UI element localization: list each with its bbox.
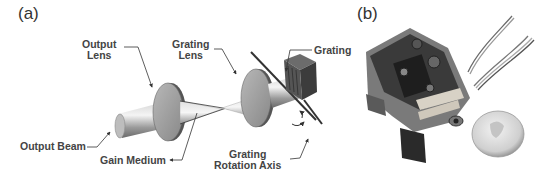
wires (468, 16, 534, 90)
laser-module (366, 28, 470, 163)
laser-module-photo (0, 0, 549, 178)
coin (472, 111, 524, 157)
